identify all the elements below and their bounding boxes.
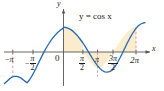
tick-label-neg-pi-half: −π2 [25,55,36,73]
fraction: π2 [30,55,36,73]
y-axis-label: y [57,0,61,8]
fraction: 3π2 [108,55,118,73]
pi-symbol: π [10,55,14,64]
tick-label-pi: π [95,56,99,64]
x-axis-arrow [146,50,151,53]
cosine-curve [5,23,146,84]
origin-label: 0 [55,54,60,63]
tick-label-three-pi-half: 3π2 [108,55,118,73]
y-axis-arrow [62,9,65,14]
fraction: π2 [79,55,85,73]
fraction-denominator: 2 [108,64,118,72]
tick-label-neg-pi: −π [5,56,14,64]
cosine-graph-figure: y = cos x 0 y x −π −π2 π2 π 3π2 2π [0,0,164,91]
equation-label: y = cos x [79,12,112,21]
fraction-denominator: 2 [30,64,36,72]
tick-label-pi-half: π2 [79,55,85,73]
fraction-denominator: 2 [79,64,85,72]
tick-label-two-pi: 2π [130,56,139,65]
x-axis-label: x [152,45,156,53]
